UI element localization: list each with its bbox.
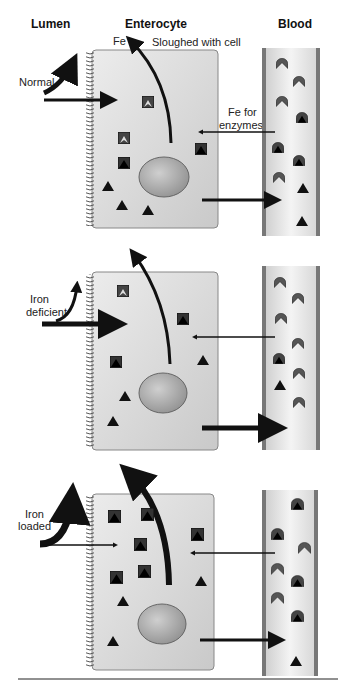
iron-absorption-diagram [0,0,338,681]
panel-normal [44,40,320,236]
panel-iron-loaded [40,472,318,676]
panel-iron-deficient [42,253,320,450]
